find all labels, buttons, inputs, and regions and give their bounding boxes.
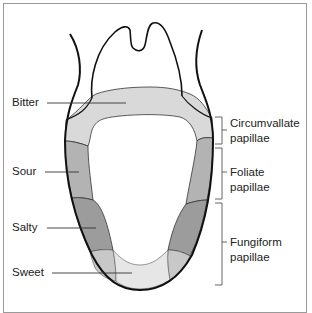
fungiform-bracket [215, 203, 227, 285]
foliate-label-line2: papillae [230, 180, 270, 195]
sweet-region-left [90, 250, 116, 281]
sour-label: Sour [12, 165, 36, 178]
epiglottis-outline [92, 23, 182, 98]
sweet-region-tip [113, 250, 170, 289]
fungiform-label-line2: papillae [230, 250, 282, 265]
bitter-region [65, 87, 213, 146]
foliate-label-line1: Foliate [230, 165, 270, 180]
bitter-label: Bitter [12, 96, 39, 109]
foliate-bracket [215, 148, 227, 199]
circumvallate-label-line1: Circumvallate [230, 116, 300, 131]
salty-label: Salty [12, 221, 38, 234]
circumvallate-label: Circumvallate papillae [230, 116, 300, 146]
sweet-label: Sweet [12, 266, 44, 279]
circumvallate-bracket [215, 117, 227, 144]
salty-region-left [72, 198, 113, 252]
circumvallate-label-line2: papillae [230, 131, 300, 146]
foliate-label: Foliate papillae [230, 165, 270, 195]
fungiform-label: Fungiform papillae [230, 235, 282, 265]
fungiform-label-line1: Fungiform [230, 235, 282, 250]
